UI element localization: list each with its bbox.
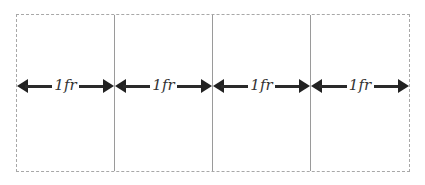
grid-container: 1fr 1fr 1fr 1fr (16, 14, 410, 172)
column-width-measure: 1fr (17, 79, 114, 93)
arrow-shaft (374, 85, 401, 88)
grid-column-3: 1fr (213, 15, 311, 171)
column-width-measure: 1fr (213, 79, 310, 93)
arrow-shaft (79, 85, 106, 88)
arrow-right-icon (398, 79, 409, 93)
column-width-measure: 1fr (115, 79, 212, 93)
arrow-shaft (177, 85, 204, 88)
column-width-measure: 1fr (311, 79, 409, 93)
arrow-right-icon (201, 79, 212, 93)
grid-column-2: 1fr (115, 15, 213, 171)
arrow-right-icon (103, 79, 114, 93)
grid-column-4: 1fr (311, 15, 409, 171)
arrow-right-icon (299, 79, 310, 93)
grid-column-1: 1fr (17, 15, 115, 171)
arrow-shaft (275, 85, 302, 88)
